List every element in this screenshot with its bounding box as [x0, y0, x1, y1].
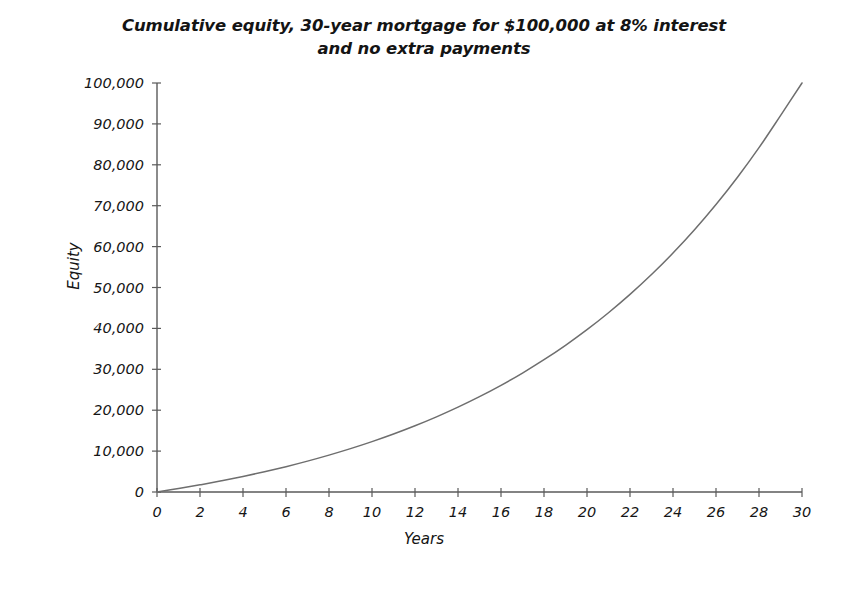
- x-tick-label: 18: [535, 504, 553, 520]
- x-tick-label: 10: [363, 504, 381, 520]
- x-tick-label: 22: [621, 504, 639, 520]
- y-tick-label: 30,000: [93, 361, 144, 377]
- y-tick-label: 10,000: [93, 443, 144, 459]
- y-tick-label: 70,000: [93, 198, 144, 214]
- x-axis-ticks: 024681012141618202224262830: [152, 488, 811, 520]
- y-tick-label: 40,000: [93, 320, 144, 336]
- y-axis-ticks: 010,00020,00030,00040,00050,00060,00070,…: [84, 75, 161, 500]
- x-tick-label: 12: [406, 504, 424, 520]
- x-tick-label: 30: [793, 504, 811, 520]
- x-tick-label: 16: [492, 504, 510, 520]
- plot-area: 010,00020,00030,00040,00050,00060,00070,…: [0, 0, 848, 590]
- y-tick-label: 50,000: [93, 280, 144, 296]
- y-tick-label: 20,000: [93, 402, 144, 418]
- x-tick-label: 20: [578, 504, 596, 520]
- y-tick-label: 100,000: [84, 75, 144, 91]
- y-tick-label: 80,000: [93, 157, 144, 173]
- equity-curve: [157, 83, 802, 492]
- x-tick-label: 24: [664, 504, 682, 520]
- y-tick-label: 90,000: [93, 116, 144, 132]
- x-tick-label: 14: [449, 504, 467, 520]
- x-tick-label: 26: [707, 504, 725, 520]
- x-tick-label: 8: [324, 504, 333, 520]
- y-tick-label: 60,000: [93, 239, 144, 255]
- x-tick-label: 2: [195, 504, 204, 520]
- chart-figure: Cumulative equity, 30-year mortgage for …: [0, 0, 848, 590]
- x-tick-label: 6: [281, 504, 290, 520]
- x-tick-label: 4: [238, 504, 247, 520]
- x-tick-label: 28: [750, 504, 768, 520]
- x-axis-label: Years: [0, 530, 848, 548]
- y-tick-label: 0: [135, 484, 144, 500]
- x-tick-label: 0: [152, 504, 161, 520]
- y-axis-label: Equity: [65, 211, 83, 321]
